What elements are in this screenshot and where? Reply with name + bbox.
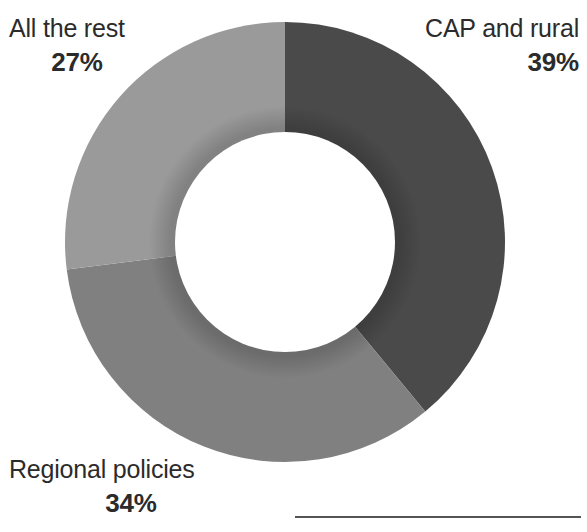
donut-chart-svg [0,0,587,532]
label-regional-policies-percent: 34% [9,489,195,518]
chart-page: All the rest 27% CAP and rural 39% Regio… [0,0,587,532]
label-cap-and-rural: CAP and rural 39% [425,14,579,77]
label-cap-and-rural-category: CAP and rural [425,14,579,42]
donut-chart [0,0,587,532]
label-regional-policies-category: Regional policies [9,455,195,483]
label-cap-and-rural-percent: 39% [425,48,579,77]
label-all-the-rest-percent: 27% [9,48,125,77]
label-regional-policies: Regional policies 34% [9,455,195,518]
footer-divider [295,516,581,518]
label-all-the-rest: All the rest 27% [9,14,125,77]
label-all-the-rest-category: All the rest [9,14,125,42]
donut-hole [175,132,395,352]
